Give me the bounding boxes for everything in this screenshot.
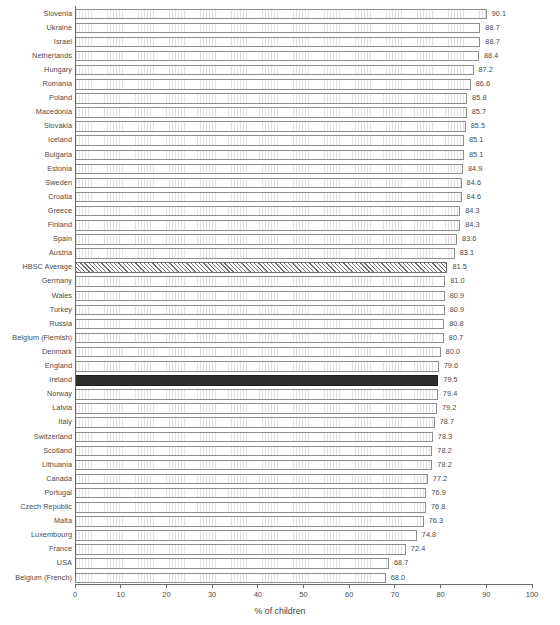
bar-croatia[interactable] [75,192,462,203]
bar-row: Wales80.9 [0,289,560,304]
bar-wrapper [75,107,467,118]
category-label-slovakia: Slovakia [44,119,72,134]
value-label: 79.5 [443,373,457,388]
bar-wrapper [75,375,438,386]
category-label-estonia: Estonia [47,162,72,177]
bar-sweden[interactable] [75,178,462,189]
x-tick [303,584,304,588]
bar-row: Canada77.2 [0,472,560,487]
bar-wrapper [75,502,426,513]
bar-scotland[interactable] [75,446,432,457]
bar-row: Croatia84.6 [0,190,560,205]
bar-slovenia[interactable] [75,9,487,20]
value-label: 80.0 [446,345,460,360]
x-tick-label: 100 [526,590,538,599]
category-label-canada: Canada [46,472,72,487]
bar-wrapper [75,9,487,20]
x-tick-label: 0 [73,590,77,599]
bar-germany[interactable] [75,276,445,287]
bar-austria[interactable] [75,248,455,259]
bar-row: USA68.7 [0,556,560,571]
bar-macedonia[interactable] [75,107,467,118]
bar-portugal[interactable] [75,488,426,499]
bar-wrapper [75,446,432,457]
x-axis-title: % of children [0,606,560,616]
category-label-turkey: Turkey [50,303,72,318]
bar-hungary[interactable] [75,65,474,76]
x-tick [440,584,441,588]
value-label: 88.4 [484,49,498,64]
bar-ireland[interactable] [75,375,438,386]
value-label: 83.1 [460,246,474,261]
category-label-switzerland: Switzerland [34,430,72,445]
category-label-bulgaria: Bulgaria [45,148,72,163]
bar-wrapper [75,234,457,245]
bar-row: Norway79.4 [0,387,560,402]
category-label-luxembourg: Luxembourg [31,528,72,543]
bar-hbsc-average[interactable] [75,262,447,273]
bar-spain[interactable] [75,234,457,245]
bar-latvia[interactable] [75,403,437,414]
value-label: 74.8 [422,528,436,543]
bar-switzerland[interactable] [75,432,433,443]
bar-israel[interactable] [75,37,480,48]
value-label: 84.6 [467,190,481,205]
bar-italy[interactable] [75,417,435,428]
bar-row: Bulgaria85.1 [0,148,560,163]
value-label: 79.6 [444,359,458,374]
category-label-greece: Greece [48,204,72,219]
bar-france[interactable] [75,544,406,555]
category-label-scotland: Scotland [43,444,72,459]
bar-england[interactable] [75,361,439,372]
value-label: 80.7 [449,331,463,346]
value-label: 83.6 [462,232,476,247]
bar-usa[interactable] [75,558,389,569]
bar-belgium-french[interactable] [75,573,386,584]
bar-poland[interactable] [75,93,467,104]
bar-romania[interactable] [75,79,471,90]
bar-iceland[interactable] [75,135,464,146]
bar-wrapper [75,333,444,344]
bar-malta[interactable] [75,516,424,527]
bar-row: Macedonia85.7 [0,105,560,120]
value-label: 88.7 [485,21,499,36]
value-label: 81.5 [452,260,466,275]
bar-row: Israel88.7 [0,35,560,50]
x-tick [75,584,76,588]
bar-bulgaria[interactable] [75,150,464,161]
x-tick-label: 10 [117,590,125,599]
category-label-denmark: Denmark [42,345,72,360]
bar-wrapper [75,530,417,541]
bar-row: Switzerland78.3 [0,430,560,445]
value-label: 86.6 [476,77,490,92]
category-label-netherlands: Netherlands [32,49,72,64]
value-label: 78.2 [437,444,451,459]
bar-wrapper [75,192,462,203]
category-label-belgium-french: Belgium (French) [15,571,72,586]
bar-ukraine[interactable] [75,23,480,34]
bar-norway[interactable] [75,389,438,400]
bar-belgium-flemish[interactable] [75,333,444,344]
value-label: 80.9 [450,303,464,318]
bar-row: HBSC Average81.5 [0,260,560,275]
value-label: 87.2 [479,63,493,78]
bar-slovakia[interactable] [75,121,466,132]
value-label: 81.0 [450,274,464,289]
bar-denmark[interactable] [75,347,441,358]
bar-row: Romania86.6 [0,77,560,92]
bar-canada[interactable] [75,474,428,485]
category-label-slovenia: Slovenia [44,7,72,22]
bar-estonia[interactable] [75,164,463,175]
bar-netherlands[interactable] [75,51,479,62]
bar-finland[interactable] [75,220,460,231]
bar-greece[interactable] [75,206,460,217]
bar-turkey[interactable] [75,305,445,316]
x-tick [257,584,258,588]
bar-wales[interactable] [75,291,445,302]
bar-russia[interactable] [75,319,444,330]
x-tick [166,584,167,588]
bar-luxembourg[interactable] [75,530,417,541]
bar-czech-republic[interactable] [75,502,426,513]
category-label-france: France [49,542,72,557]
bar-lithuania[interactable] [75,460,432,471]
